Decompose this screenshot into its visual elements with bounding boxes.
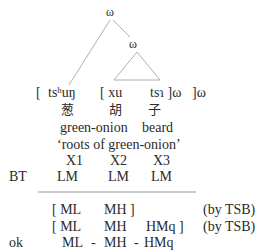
deriv1-note: (by TSB) [203,203,255,217]
omega-child-node: ω [129,38,137,50]
branch-root-right [113,20,130,37]
base-tone-1: LM [57,170,78,184]
slot-x3: X3 [153,154,170,168]
deriv3-dash-1: - [91,236,96,250]
omega-root-node: ω [106,6,114,18]
gloss-green-onion: green-onion [60,121,128,135]
slot-x1: X1 [66,154,83,168]
char-hu: 胡 [109,103,122,116]
base-tone-3: LM [151,170,172,184]
deriv2-cell-3: HMq ] [146,220,184,234]
syllable-tsz: tsɿ ]ω [150,86,181,100]
base-tone-label: BT [9,170,27,184]
deriv2-cell-2: MH [104,220,127,234]
deriv2-note: (by TSB) [203,220,255,234]
deriv3-cell-3: HMq [144,236,174,250]
char-cong: 葱 [61,103,74,116]
deriv3-label: ok [9,236,23,250]
bracket-close-outer: ]ω [192,86,206,100]
base-tone-2: LM [108,170,129,184]
deriv3-cell-2: MH [104,236,127,250]
bracket-open-outer: [ [36,86,41,100]
deriv3-dash-2: - [134,236,139,250]
translation: ‘roots of green-onion’ [57,138,181,152]
char-zi: 子 [148,103,161,116]
branch-root-left [69,20,110,85]
gloss-beard: beard [142,121,173,135]
slot-x2: X2 [110,154,127,168]
deriv2-cell-1: [ ML [52,220,81,234]
syllable-tshung: tsʰuŋ [48,86,76,100]
syllable-xu: [ xu [100,86,122,100]
deriv1-cell-2: MH ] [104,203,135,217]
triangle-node [114,52,160,80]
deriv1-cell-1: [ ML [52,203,81,217]
deriv3-cell-1: ML [62,236,83,250]
